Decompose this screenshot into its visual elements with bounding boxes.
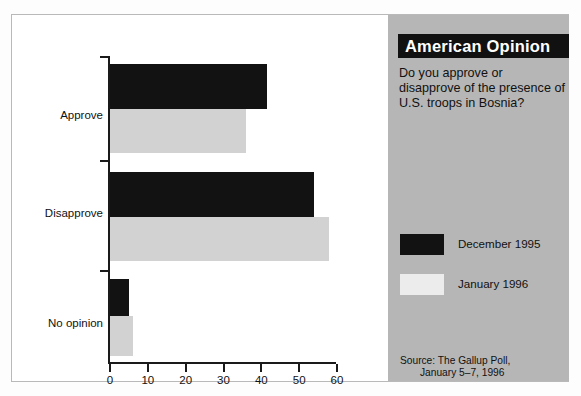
x-tick-label-30: 30 (209, 374, 239, 386)
side-panel: American Opinion Do you approve or disap… (388, 15, 569, 381)
source-line-1: Source: The Gallup Poll, (400, 355, 510, 366)
legend-item: December 1995 (400, 234, 565, 274)
bar-approve-december-1995 (110, 64, 267, 109)
panel-question: Do you approve or disapprove of the pres… (399, 66, 567, 112)
source-note: Source: The Gallup Poll, January 5–7, 19… (400, 355, 568, 380)
bar-chart: 0102030405060 ApproveDisapproveNo opinio… (11, 14, 389, 382)
panel-title-bar: American Opinion (398, 34, 569, 58)
category-label-approve: Approve (11, 109, 103, 121)
x-tick-30 (223, 364, 225, 372)
panel-title: American Opinion (405, 37, 550, 56)
x-tick-20 (185, 364, 187, 372)
x-tick-50 (298, 364, 300, 372)
bar-no-opinion-january-1996 (110, 316, 133, 356)
legend-item: January 1996 (400, 274, 565, 314)
bar-disapprove-december-1995 (110, 172, 314, 217)
x-tick-label-0: 0 (95, 374, 125, 386)
legend-label-december-1995: December 1995 (458, 237, 541, 250)
x-tick-0 (109, 364, 111, 372)
bar-no-opinion-december-1995 (110, 279, 129, 316)
x-tick-40 (260, 364, 262, 372)
x-tick-label-50: 50 (284, 374, 314, 386)
x-tick-60 (336, 364, 338, 372)
legend-swatch-january-1996 (400, 274, 444, 295)
y-tick-1 (100, 160, 109, 162)
x-tick-label-10: 10 (133, 374, 163, 386)
x-tick-label-20: 20 (171, 374, 201, 386)
category-label-disapprove: Disapprove (11, 207, 103, 219)
category-label-no-opinion: No opinion (11, 317, 103, 329)
source-line-2: January 5–7, 1996 (400, 367, 568, 379)
chart-legend: December 1995January 1996 (400, 234, 565, 314)
legend-label-january-1996: January 1996 (458, 277, 528, 290)
infographic-root: 0102030405060 ApproveDisapproveNo opinio… (0, 0, 581, 396)
x-tick-10 (147, 364, 149, 372)
x-tick-label-60: 60 (322, 374, 352, 386)
legend-swatch-december-1995 (400, 234, 444, 255)
bar-approve-january-1996 (110, 109, 246, 153)
y-tick-2 (100, 270, 109, 272)
y-tick-0 (100, 56, 109, 58)
bar-disapprove-january-1996 (110, 217, 329, 261)
x-tick-label-40: 40 (246, 374, 276, 386)
